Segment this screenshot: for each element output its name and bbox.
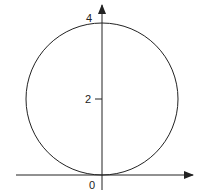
diagram-canvas: 2 4 0 [0,0,201,195]
origin-label: 0 [89,179,95,191]
tick-label-4: 4 [86,12,92,24]
tick-label-2: 2 [85,93,91,105]
